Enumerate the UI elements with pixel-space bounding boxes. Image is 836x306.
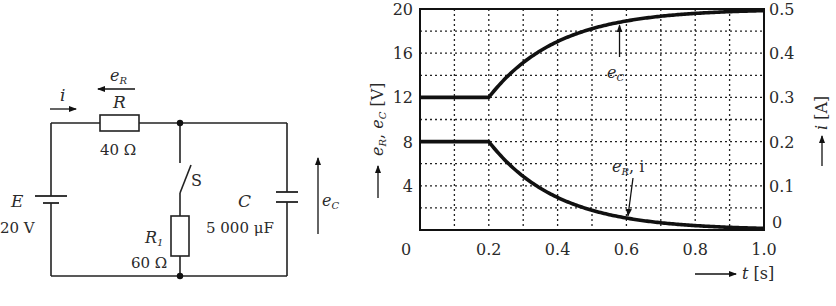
source-value: 20 V bbox=[0, 219, 36, 237]
y-right-axis-label: i [A] bbox=[812, 96, 831, 166]
x-tick-label: 0.6 bbox=[614, 240, 639, 259]
x-tick-label: 0.2 bbox=[476, 240, 501, 259]
x-tick-label: 0.8 bbox=[682, 240, 707, 259]
resistor-r-value: 40 Ω bbox=[100, 141, 136, 159]
resistor-r1-symbol bbox=[171, 216, 189, 256]
x-axis-label: t [s] bbox=[742, 264, 774, 283]
annotation-er-label: eR, i bbox=[612, 157, 644, 177]
chart: 00.20.40.60.81.04812162000.10.20.30.40.5… bbox=[368, 0, 831, 283]
resistor-r-symbol bbox=[100, 115, 139, 131]
y-tick-label: 8 bbox=[403, 133, 413, 152]
source-symbol-label: E bbox=[10, 191, 24, 211]
voltage-c-label: eC bbox=[322, 191, 339, 211]
y-right-tick-label: 0.3 bbox=[769, 88, 794, 107]
x-tick-label: 0 bbox=[401, 240, 411, 259]
switch-label: S bbox=[191, 171, 202, 190]
y-right-tick-label: 0.4 bbox=[769, 44, 794, 63]
y-right-tick-label: 0 bbox=[772, 213, 782, 232]
y-right-tick-label: 0.1 bbox=[769, 177, 794, 196]
junction-dot bbox=[177, 120, 183, 126]
y-tick-label: 4 bbox=[403, 177, 413, 196]
voltage-r-label: eR bbox=[110, 66, 127, 86]
capacitor-symbol-label: C bbox=[238, 191, 251, 211]
current-label: i bbox=[60, 85, 65, 105]
svg-text:eR, eC [V]: eR, eC [V] bbox=[368, 83, 388, 156]
circuit-diagram bbox=[51, 123, 287, 276]
grid bbox=[420, 9, 764, 230]
y-axis-label: eR, eC [V] bbox=[368, 83, 388, 198]
x-tick-label: 1.0 bbox=[751, 240, 776, 259]
y-tick-label: 12 bbox=[393, 88, 413, 107]
x-tick-label: 0.4 bbox=[545, 240, 570, 259]
switch-symbol bbox=[180, 165, 191, 193]
capacitor-value: 5 000 μF bbox=[206, 219, 274, 237]
y-tick-label: 20 bbox=[393, 0, 413, 19]
annotation-er-arrow-icon bbox=[628, 178, 633, 216]
battery-symbol bbox=[35, 196, 67, 203]
resistor-r1-symbol-label: R1 bbox=[144, 228, 163, 248]
resistor-r-symbol-label: R bbox=[112, 92, 126, 112]
resistor-r1-value: 60 Ω bbox=[131, 254, 167, 272]
annotation-ec-label: eC bbox=[607, 63, 624, 83]
y-tick-label: 16 bbox=[393, 44, 413, 63]
capacitor-symbol bbox=[276, 192, 298, 202]
figure: i eR R 40 Ω S R1 60 Ω E 20 V C 5 000 μF … bbox=[0, 0, 836, 306]
y-right-tick-label: 0.2 bbox=[769, 133, 794, 152]
junction-dot bbox=[177, 273, 183, 279]
y-right-tick-label: 0.5 bbox=[769, 0, 794, 19]
svg-text:i [A]: i [A] bbox=[812, 96, 831, 130]
